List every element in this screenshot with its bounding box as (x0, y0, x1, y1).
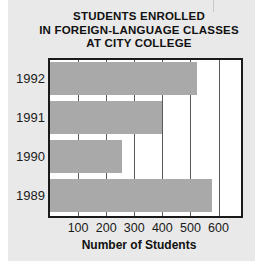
plot-area (48, 58, 243, 218)
plot-inner (50, 60, 241, 216)
chart-title-line-3: AT CITY COLLEGE (30, 37, 248, 51)
y-tick-label-1990: 1990 (1, 149, 45, 164)
gridline-600 (219, 60, 220, 216)
bar-1991 (50, 101, 162, 134)
y-tick-label-1989: 1989 (1, 188, 45, 203)
x-tick-label-600: 600 (202, 221, 236, 235)
chart-title-line-1: STUDENTS ENROLLED (30, 10, 248, 24)
chart-title-line-2: IN FOREIGN-LANGUAGE CLASSES (30, 24, 248, 38)
bar-1990 (50, 140, 122, 173)
y-axis-tick-labels: 1992199119901989 (0, 58, 45, 218)
bar-1992 (50, 62, 197, 95)
chart-title: STUDENTS ENROLLED IN FOREIGN-LANGUAGE CL… (30, 10, 248, 51)
x-axis-title: Number of Students (30, 238, 248, 252)
chart-figure: STUDENTS ENROLLED IN FOREIGN-LANGUAGE CL… (0, 0, 255, 261)
bar-1989 (50, 179, 212, 212)
x-axis-tick-labels: 100200300400500600 (48, 221, 243, 237)
y-tick-label-1991: 1991 (1, 110, 45, 125)
y-tick-label-1992: 1992 (1, 71, 45, 86)
